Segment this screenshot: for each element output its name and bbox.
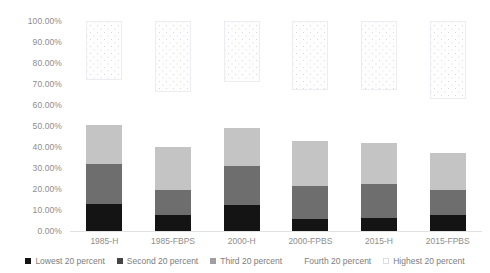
bar-segment-1[interactable] [292, 219, 328, 231]
bar-group [70, 21, 482, 231]
x-axis-tick-label: 2015-H [345, 236, 414, 252]
bar-segment-5[interactable] [430, 21, 466, 99]
bar-segment-4[interactable] [86, 80, 122, 125]
axis-baseline [70, 231, 482, 232]
x-axis-tick-label: 1985-H [70, 236, 139, 252]
y-axis-tick-label: 60.00% [33, 100, 62, 110]
bar-stack[interactable] [139, 21, 208, 231]
y-axis-tick-label: 90.00% [33, 37, 62, 47]
bar-segment-2[interactable] [292, 186, 328, 219]
bar-segment-1[interactable] [155, 215, 191, 231]
bar-segment-1[interactable] [86, 204, 122, 231]
bar-segment-5[interactable] [86, 21, 122, 80]
legend-item[interactable]: Second 20 percent [117, 256, 198, 266]
bar-segment-3[interactable] [86, 125, 122, 164]
bar-segment-5[interactable] [155, 21, 191, 92]
y-axis-tick-label: 80.00% [33, 58, 62, 68]
bar-segment-2[interactable] [86, 164, 122, 204]
legend-item[interactable]: Third 20 percent [210, 256, 282, 266]
x-axis-tick-label: 2000-FPBS [276, 236, 345, 252]
bar-segment-2[interactable] [224, 166, 260, 205]
legend-swatch-fourth [294, 258, 300, 264]
bar-stack[interactable] [413, 21, 482, 231]
stacked-bar-chart: 100.00%90.00%80.00%70.00%60.00%50.00%40.… [0, 0, 490, 273]
bar-stack[interactable] [207, 21, 276, 231]
x-axis-tick-label: 2000-H [207, 236, 276, 252]
legend-swatch-lowest [25, 258, 31, 264]
bar-segment-3[interactable] [155, 147, 191, 190]
bar-segment-3[interactable] [430, 153, 466, 189]
bar-segment-1[interactable] [224, 205, 260, 231]
x-axis-tick-label: 1985-FBPS [139, 236, 208, 252]
bar-stack[interactable] [70, 21, 139, 231]
legend-item-label: Lowest 20 percent [35, 256, 104, 266]
bar-segment-3[interactable] [361, 143, 397, 184]
bar-segment-4[interactable] [430, 99, 466, 154]
y-axis-tick-label: 50.00% [33, 121, 62, 131]
legend-item[interactable]: Fourth 20 percent [294, 256, 371, 266]
legend-swatch-second [117, 258, 123, 264]
x-axis: 1985-H1985-FBPS2000-H2000-FPBS2015-H2015… [70, 236, 482, 252]
y-axis-tick-label: 20.00% [33, 184, 62, 194]
y-axis: 100.00%90.00%80.00%70.00%60.00%50.00%40.… [0, 0, 70, 273]
y-axis-tick-label: 0.00% [37, 226, 62, 236]
bar-stack[interactable] [276, 21, 345, 231]
bar-segment-4[interactable] [155, 92, 191, 147]
legend-swatch-third [210, 258, 216, 264]
bar-stack[interactable] [345, 21, 414, 231]
bar-segment-4[interactable] [292, 90, 328, 140]
legend-item-label: Second 20 percent [127, 256, 198, 266]
bar-segment-5[interactable] [292, 21, 328, 90]
bar-segment-2[interactable] [430, 190, 466, 215]
y-axis-tick-label: 10.00% [33, 205, 62, 215]
bar-segment-4[interactable] [361, 90, 397, 143]
y-axis-tick-label: 40.00% [33, 142, 62, 152]
bar-segment-3[interactable] [224, 128, 260, 166]
bar-segment-1[interactable] [430, 215, 466, 231]
y-axis-tick-label: 70.00% [33, 79, 62, 89]
plot-area [70, 21, 482, 231]
x-axis-tick-label: 2015-FPBS [413, 236, 482, 252]
bar-segment-4[interactable] [224, 82, 260, 128]
legend-item-label: Highest 20 percent [393, 256, 464, 266]
bar-segment-2[interactable] [361, 184, 397, 218]
bar-segment-5[interactable] [361, 21, 397, 90]
bar-segment-3[interactable] [292, 141, 328, 186]
bar-segment-2[interactable] [155, 190, 191, 215]
legend-item-label: Third 20 percent [220, 256, 282, 266]
bar-segment-1[interactable] [361, 218, 397, 231]
legend-item[interactable]: Lowest 20 percent [25, 256, 104, 266]
legend-item[interactable]: Highest 20 percent [383, 256, 464, 266]
bar-segment-5[interactable] [224, 21, 260, 82]
y-axis-tick-label: 30.00% [33, 163, 62, 173]
legend-swatch-highest [383, 258, 389, 264]
y-axis-tick-label: 100.00% [28, 16, 62, 26]
legend-item-label: Fourth 20 percent [304, 256, 371, 266]
chart-legend: Lowest 20 percentSecond 20 percentThird … [0, 256, 490, 266]
